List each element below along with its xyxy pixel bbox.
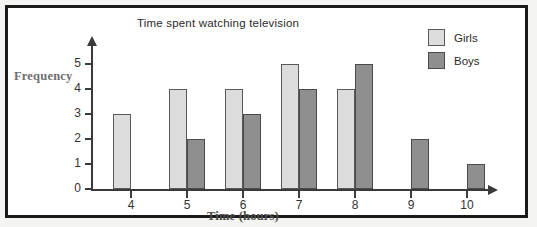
bar-chart: Time spent watching television Frequency… [8, 8, 531, 221]
x-tick-10 [466, 191, 468, 198]
x-axis-arrow-icon [488, 185, 498, 195]
bar-girls-4 [113, 114, 131, 189]
x-tick-7 [298, 191, 300, 198]
y-tick-label-2: 2 [63, 131, 81, 145]
legend-item-girls: Girls [428, 26, 523, 49]
bar-girls-7 [281, 64, 299, 189]
legend-swatch-boys-icon [428, 52, 445, 69]
legend-swatch-girls-icon [428, 29, 445, 46]
bar-boys-10 [467, 164, 485, 189]
x-tick-label-7: 7 [286, 198, 312, 212]
y-tick-label-0: 0 [63, 181, 81, 195]
bar-girls-5 [169, 89, 187, 189]
legend-label-boys: Boys [454, 55, 480, 67]
y-axis-line [91, 44, 93, 191]
x-tick-4 [130, 191, 132, 198]
y-tick-5 [85, 63, 91, 65]
y-tick-label-5: 5 [63, 56, 81, 70]
bar-boys-8 [355, 64, 373, 189]
chart-frame: Time spent watching television Frequency… [5, 5, 528, 218]
x-tick-6 [242, 191, 244, 198]
chart-title: Time spent watching television [8, 17, 428, 29]
x-tick-5 [186, 191, 188, 198]
y-tick-label-3: 3 [63, 106, 81, 120]
y-tick-1 [85, 163, 91, 165]
x-tick-label-10: 10 [454, 198, 480, 212]
bar-boys-5 [187, 139, 205, 189]
x-tick-label-6: 6 [230, 198, 256, 212]
legend-item-boys: Boys [428, 49, 523, 72]
bar-boys-6 [243, 114, 261, 189]
y-axis-arrow-icon [87, 36, 97, 46]
chart-legend: Girls Boys [428, 26, 523, 72]
x-axis-line [91, 189, 491, 191]
x-tick-label-4: 4 [118, 198, 144, 212]
x-tick-9 [410, 191, 412, 198]
y-tick-label-1: 1 [63, 156, 81, 170]
screenshot-canvas: Time spent watching television Frequency… [0, 0, 537, 227]
y-tick-0 [85, 188, 91, 190]
x-tick-label-5: 5 [174, 198, 200, 212]
bar-boys-9 [411, 139, 429, 189]
y-tick-2 [85, 138, 91, 140]
y-tick-4 [85, 88, 91, 90]
legend-label-girls: Girls [454, 32, 478, 44]
y-tick-3 [85, 113, 91, 115]
x-tick-label-9: 9 [398, 198, 424, 212]
y-tick-label-4: 4 [63, 81, 81, 95]
bar-boys-7 [299, 89, 317, 189]
bar-girls-8 [337, 89, 355, 189]
bar-girls-6 [225, 89, 243, 189]
x-tick-8 [354, 191, 356, 198]
x-tick-label-8: 8 [342, 198, 368, 212]
